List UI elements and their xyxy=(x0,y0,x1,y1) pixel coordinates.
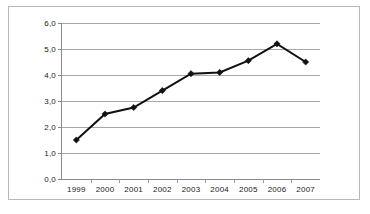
x-axis-tick-mark xyxy=(291,179,292,183)
y-axis-tick-label: 1,0 xyxy=(44,149,56,158)
x-axis-tick-label: 2006 xyxy=(268,185,287,194)
y-axis-tick-label: 0,0 xyxy=(44,175,56,184)
y-axis-tick-label: 4,0 xyxy=(44,71,56,80)
y-axis-tick-label: 2,0 xyxy=(44,123,56,132)
chart-frame: 0,01,02,03,04,05,06,0 199920002001200220… xyxy=(8,6,360,200)
x-axis-tick-mark xyxy=(234,179,235,183)
y-axis-tick-mark xyxy=(58,179,62,180)
series-line xyxy=(76,44,305,140)
x-axis-tick-label: 2005 xyxy=(239,185,258,194)
data-point-marker xyxy=(217,69,223,75)
x-axis-tick-mark xyxy=(148,179,149,183)
data-series-svg xyxy=(62,23,320,179)
y-axis-tick-label: 3,0 xyxy=(44,97,56,106)
x-axis-tick-mark xyxy=(91,179,92,183)
x-axis-tick-label: 2001 xyxy=(124,185,143,194)
x-axis-tick-mark xyxy=(263,179,264,183)
x-axis-tick-label: 2004 xyxy=(210,185,229,194)
x-axis-tick-label: 1999 xyxy=(67,185,86,194)
plot-area: 0,01,02,03,04,05,06,0 199920002001200220… xyxy=(61,23,320,180)
x-axis-tick-mark xyxy=(205,179,206,183)
x-axis-tick-label: 2003 xyxy=(182,185,201,194)
x-axis-tick-label: 2002 xyxy=(153,185,172,194)
x-axis-tick-mark xyxy=(119,179,120,183)
x-axis-tick-label: 2007 xyxy=(296,185,315,194)
y-axis-tick-label: 5,0 xyxy=(44,45,56,54)
x-axis-tick-mark xyxy=(177,179,178,183)
data-point-markers xyxy=(73,41,309,143)
chart-plot-wrapper: 0,01,02,03,04,05,06,0 199920002001200220… xyxy=(9,7,361,201)
y-axis-tick-label: 6,0 xyxy=(44,19,56,28)
x-axis-tick-label: 2000 xyxy=(96,185,115,194)
